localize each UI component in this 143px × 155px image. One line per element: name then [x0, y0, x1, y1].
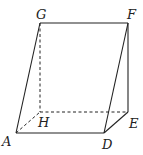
prism-diagram: G F H E A D	[0, 0, 143, 155]
label-A: A	[1, 134, 11, 149]
label-G: G	[36, 7, 46, 22]
label-F: F	[126, 7, 137, 22]
label-E: E	[128, 116, 139, 131]
edge-DF	[104, 23, 128, 133]
label-H: H	[37, 115, 50, 130]
label-D: D	[101, 137, 113, 152]
edge-GA	[16, 23, 40, 133]
